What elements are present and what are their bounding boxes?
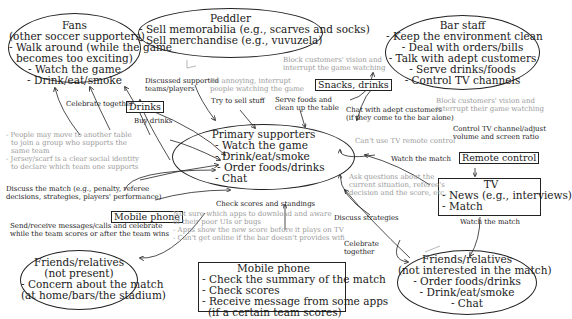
label-line: Send/receive messages/calls and celebrat… [10,222,169,230]
label-line: people watching the game [210,85,304,93]
label-line: same team [6,147,139,155]
label-line: Control TV channel/adjust [453,125,546,133]
label-check-scores: Check scores and standings [216,200,315,208]
label-line: decisions, strategies, players' performa… [6,193,161,201]
label-line: Block customers' vision and [283,56,385,64]
label-line: interrupt the game watching [283,64,385,72]
tv-node: TV - News (e.g., interviews) - Match [438,178,541,216]
label-line: Be annoying, interrupt [210,77,304,85]
label-line: clean up the table [275,104,339,112]
mobile-phone-node: Mobile phone - Check the summary of the … [198,262,346,312]
label-line: volume and screen ratio [453,133,546,141]
label-line: Block customers' vision and [436,97,544,105]
fans-node: Fans (other soccer supporters) - Walk ar… [8,13,141,83]
label-send-receive: Send/receive messages/calls and celebrat… [10,222,169,238]
label-celebrate-together-2: Celebrate together [344,240,379,256]
label-line: - Apps show the new score before it play… [173,226,345,234]
label-discussed-teams: Discussed supported teams/players [145,77,219,93]
primary-supporters-node: Primary supporters - Watch the game - Dr… [172,124,355,190]
label-line: Not sure which apps to download and awar… [173,210,345,218]
label-line: of their poor UIs or bugs [173,218,345,226]
label-cant-use-remote: Can't use TV remote control [355,137,455,145]
label-line: interrupt their game watching [436,105,544,113]
label-celebrate-together: Celebrate together [66,100,134,108]
label-watch-match-1: Watch the match [391,155,451,163]
label-move-table: - People may move to another table to jo… [6,131,139,171]
peddler-node: Peddler - Sell memorabilia (e.g., scarve… [138,8,323,58]
friends-absent-item: (at home/bars/the stadium) [21,290,137,301]
label-block-vision-top: Block customers' vision and interrupt th… [283,56,385,72]
peddler-item: - Sell merchandise (e.g., vuvuzela) [139,35,322,46]
label-discuss-match: Discuss the match (e.g., penalty, refere… [6,185,161,201]
friends-present-node: Friends/relatives (not interested in the… [397,250,537,315]
label-line: Celebrate [344,240,379,248]
label-line: to declare which team one supports [6,163,139,171]
remote-control-artifact: Remote control [459,152,539,164]
snacks-drinks-artifact: Snacks, drinks [315,79,392,91]
bar-staff-node: Bar staff - Keep the environment clean -… [385,15,540,90]
label-serve-foods: Serve foods and clean up the table [275,96,339,112]
label-line: - People may move to another table [6,131,139,139]
label-line: (if they come to the bar alone) [346,114,454,122]
label-line: while the team scores or after the team … [10,230,169,238]
label-try-to-sell: Try to sell stuff [211,97,265,105]
label-discuss-strategies: Discuss strategies [334,214,399,222]
primary-item: - Chat [173,173,354,184]
label-line: Discussed supported [145,77,219,85]
label-line: to join a group who supports the [6,139,139,147]
label-line: Serve foods and [275,96,339,104]
fans-item: - Drink/eat/smoke [9,75,140,86]
label-watch-match-2: Watch the match [460,218,520,226]
primary-item: - Order foods/drinks [173,162,354,173]
label-block-vision-right: Block customers' vision and interrupt th… [436,97,544,113]
tv-item: - Match [442,201,540,212]
label-line: together [344,248,379,256]
label-line: current situation, referee's [349,181,446,189]
label-line: - Jersey/scarf is a clear social identit… [6,155,139,163]
bar-staff-item: - Control TV channels [386,75,539,86]
friends-present-item: - Chat [398,298,536,309]
label-annoying: Be annoying, interrupt people watching t… [210,77,304,93]
label-line: decision and the score, etc. [349,189,446,197]
label-mobile-problems: Not sure which apps to download and awar… [173,210,345,242]
label-line: Ask questions about the [349,173,446,181]
label-line: teams/players [145,85,219,93]
label-control-tv: Control TV channel/adjust volume and scr… [453,125,546,141]
label-ask-questions: Ask questions about the current situatio… [349,173,446,197]
mobile-item: (if a certain team scores) [202,307,345,318]
label-line: Discuss the match (e.g., penalty, refere… [6,185,161,193]
label-buy-drinks: Buy drinks [134,117,172,125]
friends-not-present-node: Friends/relatives (not present) - Concer… [20,250,138,310]
label-line: - Can't get online if the bar doesn't pr… [173,234,345,242]
